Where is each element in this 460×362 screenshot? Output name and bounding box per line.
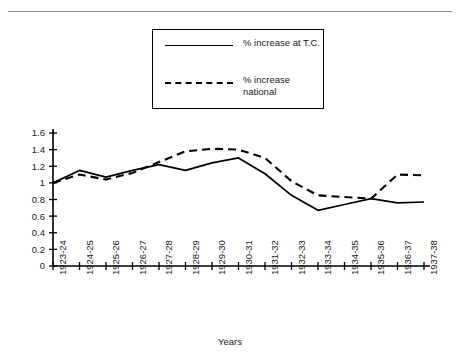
- y-tick-label: 1: [40, 177, 45, 188]
- chart-svg: 00.20.40.60.811.21.41.6: [0, 0, 460, 362]
- y-tick-label: 0.4: [32, 227, 45, 238]
- x-tick-label: 1926-27: [137, 240, 148, 275]
- x-tick-label: 1927-28: [163, 240, 174, 275]
- y-tick-label: 0.8: [32, 194, 45, 205]
- series-line-1: [53, 158, 424, 210]
- x-tick-label: 1931-32: [269, 240, 280, 275]
- x-tick-label: 1930-31: [243, 240, 254, 275]
- y-tick-label: 1.4: [32, 144, 45, 155]
- x-tick-label: 1924-25: [84, 240, 95, 275]
- x-tick-label: 1929-30: [216, 240, 227, 275]
- x-tick-label: 1934-35: [349, 240, 360, 275]
- y-tick-label: 0.6: [32, 211, 45, 222]
- series-line-2: [53, 149, 424, 199]
- x-tick-label: 1928-29: [190, 240, 201, 275]
- x-tick-label: 1936-37: [402, 240, 413, 275]
- y-tick-label: 0.2: [32, 244, 45, 255]
- x-tick-label: 1935-36: [375, 240, 386, 275]
- x-tick-label: 1933-34: [322, 240, 333, 275]
- y-tick-label: 1.2: [32, 161, 45, 172]
- x-tick-label: 1923-24: [57, 240, 68, 275]
- x-tick-label: 1932-33: [296, 240, 307, 275]
- x-tick-label: 1925-26: [110, 240, 121, 275]
- x-tick-label: 1937-38: [428, 240, 439, 275]
- plot-area: 00.20.40.60.811.21.41.6: [0, 0, 460, 362]
- x-axis-title: Years: [0, 336, 460, 347]
- y-tick-label: 0: [40, 260, 45, 271]
- chart-page: % increase at T.C. % increase national 0…: [0, 0, 460, 362]
- y-tick-label: 1.6: [32, 127, 45, 138]
